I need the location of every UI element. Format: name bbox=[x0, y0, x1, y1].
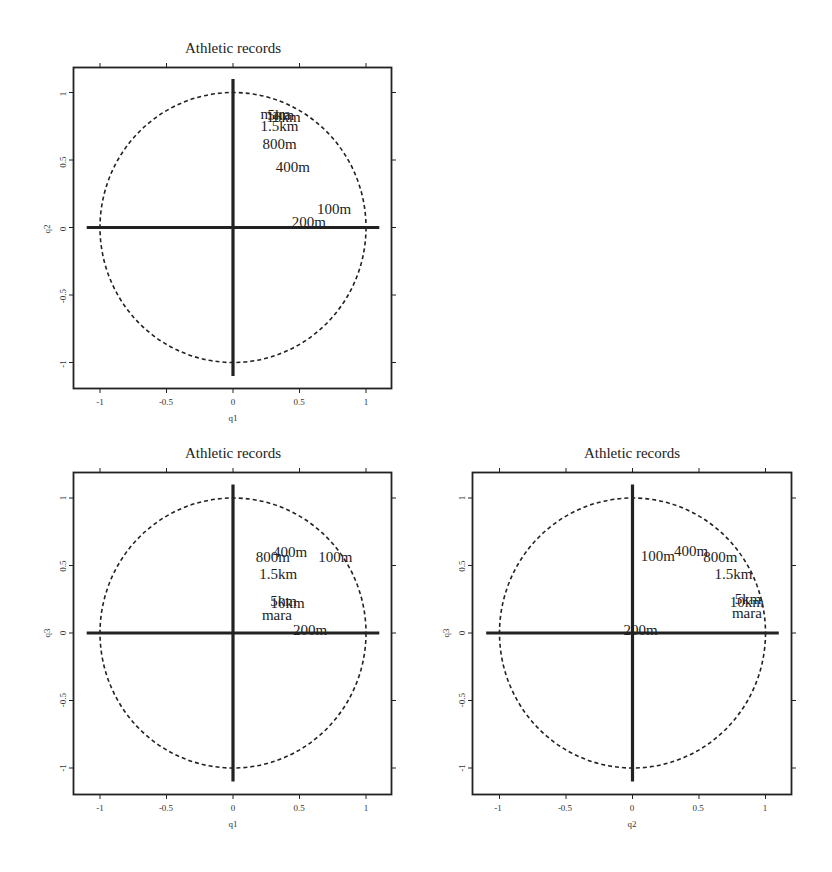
x-tick-label: -1 bbox=[494, 803, 502, 813]
x-tick-label: -0.5 bbox=[558, 803, 572, 813]
point-label: 100m bbox=[641, 548, 676, 564]
y-tick-label: 0 bbox=[457, 631, 467, 636]
point-label: 200m bbox=[623, 622, 658, 638]
x-tick-label: 0 bbox=[630, 803, 635, 813]
y-axis-title: q3 bbox=[441, 629, 451, 638]
y-tick-label: -0.5 bbox=[457, 693, 467, 707]
y-tick-label: -1 bbox=[457, 764, 467, 772]
plot-area: 100m400m800m1.5km5km10kmmara200m bbox=[472, 472, 792, 795]
point-label: 1.5km bbox=[715, 566, 753, 582]
x-axis-title: q2 bbox=[628, 819, 637, 829]
x-tick-label: 0.5 bbox=[692, 803, 703, 813]
point-label: mara bbox=[732, 605, 762, 621]
x-tick-label: 1 bbox=[763, 803, 768, 813]
y-tick-label: 0.5 bbox=[457, 560, 467, 571]
y-tick-label: 1 bbox=[457, 496, 467, 501]
panel-title: Athletic records bbox=[584, 445, 680, 462]
panel-q2-q3: Athletic records 100m400m800m1.5km5km10k… bbox=[0, 0, 832, 872]
point-label: 800m bbox=[703, 549, 738, 565]
